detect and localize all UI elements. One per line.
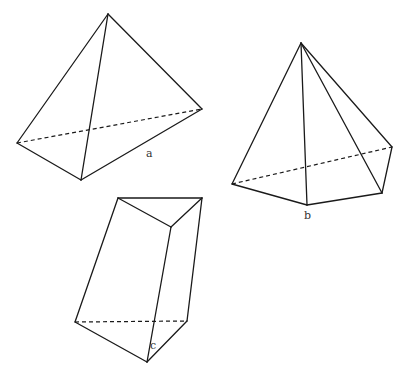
figure-c-triangular-prism [75, 198, 202, 362]
figure-a-label: a [146, 147, 153, 160]
figure-b-pentagonal-pyramid [232, 43, 392, 205]
geometry-figure-canvas: a b c [0, 0, 403, 381]
solids-diagram [0, 0, 403, 381]
figure-c-label: c [150, 339, 156, 352]
figure-b-label: b [304, 209, 311, 222]
figure-a-triangular-pyramid [17, 14, 202, 180]
